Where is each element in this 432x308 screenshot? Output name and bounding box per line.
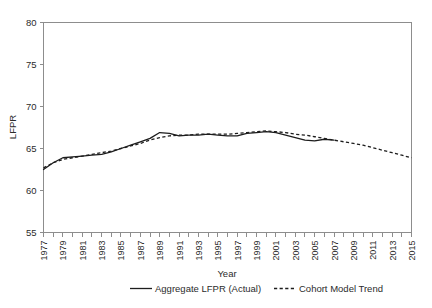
y-tick-label: 60 xyxy=(26,185,37,196)
y-axis: 556065707580 xyxy=(26,17,44,238)
chart-legend: Aggregate LFPR (Actual)Cohort Model Tren… xyxy=(130,283,383,294)
y-tick-label: 70 xyxy=(26,101,37,112)
x-tick-label: 1983 xyxy=(97,241,107,261)
y-tick-label: 75 xyxy=(26,59,37,70)
legend-label: Aggregate LFPR (Actual) xyxy=(155,283,261,294)
x-tick-label: 1989 xyxy=(155,241,165,261)
x-tick-label: 1987 xyxy=(136,241,146,261)
legend-label: Cohort Model Trend xyxy=(299,283,383,294)
lfpr-line-chart: 556065707580 197719791981198319851987198… xyxy=(0,0,432,308)
x-tick-label: 2015 xyxy=(407,241,417,261)
x-tick-label: 1979 xyxy=(58,241,68,261)
x-axis: 1977197919811983198519871989199119931995… xyxy=(39,233,417,261)
series-line-actual xyxy=(44,132,335,170)
x-tick-label: 2005 xyxy=(310,241,320,261)
x-tick-label: 2009 xyxy=(349,241,359,261)
x-tick-label: 1991 xyxy=(175,241,185,261)
x-tick-label: 2011 xyxy=(368,241,378,260)
x-tick-label: 1977 xyxy=(39,241,49,261)
chart-figure: 556065707580 197719791981198319851987198… xyxy=(0,0,432,308)
x-tick-label: 1993 xyxy=(194,241,204,261)
y-tick-label: 65 xyxy=(26,143,37,154)
y-axis-title: LFPR xyxy=(7,115,18,139)
x-tick-label: 2003 xyxy=(291,241,301,261)
y-tick-label: 80 xyxy=(26,17,37,28)
x-tick-label: 2007 xyxy=(330,241,340,261)
y-tick-label: 55 xyxy=(26,227,37,238)
x-tick-label: 1995 xyxy=(213,241,223,261)
series-layer xyxy=(44,131,412,170)
x-tick-label: 1985 xyxy=(116,241,126,261)
x-tick-label: 1997 xyxy=(233,241,243,261)
plot-frame xyxy=(44,23,412,233)
x-tick-label: 1981 xyxy=(78,241,88,261)
x-tick-label: 2013 xyxy=(388,241,398,261)
x-tick-label: 1999 xyxy=(252,241,262,261)
cropped-header-text xyxy=(258,0,428,6)
x-tick-label: 2001 xyxy=(271,241,281,261)
x-axis-title: Year xyxy=(217,268,236,279)
